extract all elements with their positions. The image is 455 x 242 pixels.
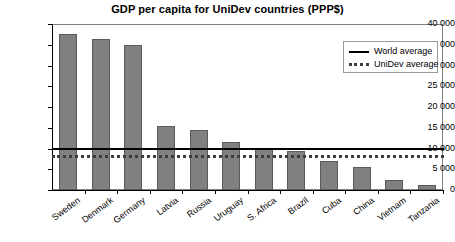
- chart-legend: World average UniDev average: [343, 41, 438, 73]
- bar: [353, 167, 371, 190]
- reference-line-solid: [52, 148, 444, 150]
- chart-title: GDP per capita for UniDev countries (PPP…: [0, 3, 455, 15]
- legend-solid-line-icon: [349, 51, 369, 53]
- gdp-bar-chart: GDP per capita for UniDev countries (PPP…: [0, 0, 455, 242]
- bar: [59, 34, 77, 190]
- bar: [124, 45, 142, 190]
- bar: [190, 130, 208, 190]
- bar: [157, 126, 175, 190]
- reference-line-dotted: [52, 155, 444, 158]
- legend-label-unidev-average: UniDev average: [374, 60, 439, 69]
- legend-item-world-average: World average: [349, 45, 432, 58]
- bar: [92, 39, 110, 190]
- bar: [320, 161, 338, 190]
- legend-label-world-average: World average: [374, 47, 432, 56]
- bar: [385, 180, 403, 190]
- x-axis-labels: SwedenDenmarkGermanyLatviaRussiaUruguayS…: [0, 190, 455, 242]
- legend-item-unidev-average: UniDev average: [349, 58, 432, 71]
- legend-dotted-line-icon: [349, 63, 369, 66]
